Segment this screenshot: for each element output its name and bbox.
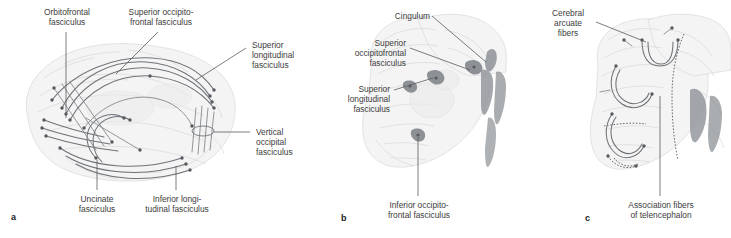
panel-letter-c: c — [585, 213, 590, 223]
label-vertical-occipital-fasciculus: Vertical occipital fasciculus — [256, 127, 308, 158]
label-superior-longitudinal-fasciculus-b: Superior longitudinal fasciculus — [322, 84, 390, 115]
label-uncinate-fasciculus: Uncinate fasciculus — [60, 194, 134, 214]
label-superior-occipitofrontal-fasciculus-a: Superior occipito- frontal fasciculus — [112, 7, 210, 27]
label-superior-longitudinal-fasciculus-a: Superior longitudinal fasciculus — [252, 40, 308, 71]
anatomy-figure: Orbitofrontal fasciculus Superior occipi… — [0, 0, 731, 238]
panel-letter-b: b — [341, 213, 347, 223]
label-superior-occipitofrontal-fasciculus-b: Superior occipitofrontal fasciculus — [318, 38, 406, 69]
label-cerebral-arcuate-fibers: Cerebral arcuate fibers — [540, 8, 596, 39]
label-inferior-longitudinal-fasciculus: Inferior longi- tudinal fasciculus — [130, 194, 224, 214]
label-association-fibers-of-telencephalon: Association fibers of telencephalon — [610, 200, 712, 220]
brain-lateral-outline — [26, 44, 235, 182]
label-orbitofrontal-fasciculus: Orbitofrontal fasciculus — [24, 7, 110, 27]
brain-coronal-c — [590, 14, 731, 169]
label-cingulum: Cingulum — [352, 11, 430, 21]
label-inferior-occipitofrontal-fasciculus: Inferior occipito- frontal fasciculus — [372, 200, 466, 220]
panel-letter-a: a — [11, 212, 16, 222]
